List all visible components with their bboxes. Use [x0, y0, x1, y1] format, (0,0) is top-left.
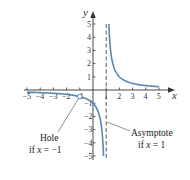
x-tick-label: 2 [117, 92, 121, 101]
y-tick-label: −5 [84, 152, 93, 161]
curve-right-branch [109, 24, 159, 87]
y-tick-label: −2 [84, 112, 93, 121]
x-axis-label: x [171, 89, 177, 101]
asymptote-annotation-line1: Asymptote [131, 128, 173, 138]
hole-annotation-line2: if x = −1 [29, 145, 62, 155]
y-axis-label: y [82, 6, 88, 18]
hole-leader-line [58, 99, 79, 133]
hole-marker [78, 94, 83, 99]
y-tick-label: −3 [84, 125, 93, 134]
y-axis-arrow-icon [90, 11, 95, 18]
y-tick-label: 1 [87, 73, 91, 82]
asymptote-leader-line [107, 122, 130, 131]
x-tick-label: −2 [62, 92, 71, 101]
y-tick-label: 5 [87, 20, 91, 29]
y-tick-label: 4 [87, 33, 91, 42]
asymptote-annotation-line2: if x = 1 [138, 140, 166, 150]
x-tick-label: 4 [144, 92, 148, 101]
y-tick-label: 2 [87, 59, 91, 68]
y-tick-label: −4 [84, 139, 93, 148]
hole-annotation-line1: Hole [40, 133, 58, 143]
y-tick-label: 3 [87, 46, 91, 55]
x-tick-label: 5 [157, 92, 161, 101]
x-tick-label: 3 [130, 92, 134, 101]
graph-canvas: −5−4−3−2−112345 54321−1−2−3−4−5 x y Hole… [0, 0, 190, 180]
